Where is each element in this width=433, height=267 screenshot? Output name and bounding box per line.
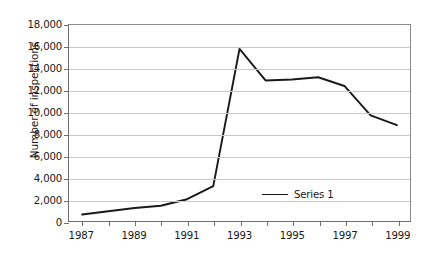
x-axis-tick-label: 1989 bbox=[121, 230, 146, 241]
y-axis-tick bbox=[64, 91, 69, 92]
gridline bbox=[69, 179, 410, 180]
x-axis-tick bbox=[82, 221, 83, 226]
gridline bbox=[69, 201, 410, 202]
series-line-series-1 bbox=[69, 25, 410, 221]
y-axis-tick bbox=[64, 135, 69, 136]
x-axis-tick-label: 1999 bbox=[385, 230, 410, 241]
y-axis-tick-label: 12,000 bbox=[18, 85, 62, 96]
x-axis-tick-label: 1991 bbox=[174, 230, 199, 241]
x-axis-tick bbox=[161, 221, 162, 226]
x-axis-tick-label: 1993 bbox=[227, 230, 252, 241]
y-axis-tick bbox=[64, 69, 69, 70]
y-axis-tick-label: 10,000 bbox=[18, 107, 62, 118]
y-axis-tick-labels: 02,0004,0006,0008,00010,00012,00014,0001… bbox=[16, 0, 62, 267]
gridline bbox=[69, 91, 410, 92]
x-axis-tick-label: 1997 bbox=[332, 230, 357, 241]
gridline bbox=[69, 135, 410, 136]
y-axis-tick bbox=[64, 179, 69, 180]
x-axis-tick-labels: 1987198919911993199519971999 bbox=[68, 230, 411, 250]
x-axis-tick-label: 1987 bbox=[69, 230, 94, 241]
y-axis-tick bbox=[64, 223, 69, 224]
y-axis-tick bbox=[64, 113, 69, 114]
x-axis-tick bbox=[241, 221, 242, 226]
y-axis-tick-label: 14,000 bbox=[18, 63, 62, 74]
x-axis-tick bbox=[320, 221, 321, 226]
line-chart: Number of inspections 02,0004,0006,0008,… bbox=[0, 0, 433, 267]
gridline bbox=[69, 157, 410, 158]
x-axis-tick-label: 1995 bbox=[280, 230, 305, 241]
y-axis-tick-label: 16,000 bbox=[18, 41, 62, 52]
y-axis-tick-label: 4,000 bbox=[18, 173, 62, 184]
y-axis-tick-label: 2,000 bbox=[18, 195, 62, 206]
chart-legend: Series 1 bbox=[258, 184, 337, 204]
x-axis-tick bbox=[293, 221, 294, 226]
y-axis-tick bbox=[64, 201, 69, 202]
x-axis-tick bbox=[346, 221, 347, 226]
plot-area bbox=[68, 24, 411, 222]
gridline bbox=[69, 113, 410, 114]
gridline bbox=[69, 47, 410, 48]
gridline bbox=[69, 69, 410, 70]
y-axis-tick-label: 8,000 bbox=[18, 129, 62, 140]
legend-label-series-1: Series 1 bbox=[294, 189, 333, 200]
x-axis-tick bbox=[214, 221, 215, 226]
legend-swatch-series-1 bbox=[262, 194, 288, 195]
y-axis-tick-label: 0 bbox=[18, 217, 62, 228]
y-axis-tick-label: 18,000 bbox=[18, 19, 62, 30]
x-axis-tick bbox=[267, 221, 268, 226]
y-axis-tick-label: 6,000 bbox=[18, 151, 62, 162]
x-axis-tick bbox=[109, 221, 110, 226]
x-axis-tick bbox=[135, 221, 136, 226]
x-axis-tick bbox=[188, 221, 189, 226]
y-axis-tick bbox=[64, 25, 69, 26]
x-axis-tick bbox=[372, 221, 373, 226]
y-axis-tick bbox=[64, 157, 69, 158]
x-axis-tick bbox=[399, 221, 400, 226]
y-axis-tick bbox=[64, 47, 69, 48]
